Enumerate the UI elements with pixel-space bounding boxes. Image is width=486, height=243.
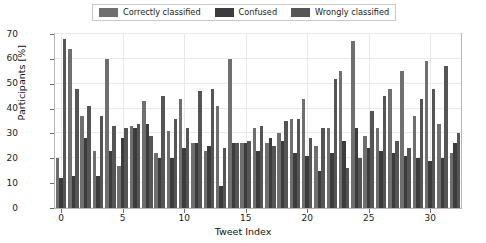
bar (137, 124, 141, 209)
x-tick-label: 25 (354, 214, 384, 223)
legend-label-confused: Confused (239, 8, 278, 16)
bar (321, 128, 325, 208)
bar-group (351, 41, 362, 208)
bar (87, 106, 91, 208)
bar-group (117, 128, 128, 208)
bar (309, 138, 313, 208)
y-tick-mark (50, 109, 54, 110)
bar-group (425, 61, 436, 208)
chart-legend: Correctly classified Confused Wrongly cl… (92, 4, 396, 21)
bar-group (363, 111, 374, 208)
y-tick-mark (50, 158, 54, 159)
y-tick-mark (50, 59, 54, 60)
bar (272, 146, 276, 208)
bar-group (302, 99, 313, 208)
x-tick-label: 20 (292, 214, 322, 223)
bar-group (167, 119, 178, 208)
y-tick-mark (50, 183, 54, 184)
bar-group (56, 39, 67, 208)
legend-entry-correctly-classified: Correctly classified (99, 8, 201, 17)
bar (247, 141, 251, 208)
y-tick-label: 30 (0, 129, 18, 138)
y-tick-mark (50, 133, 54, 134)
bar-group (388, 89, 399, 208)
bar-series-container (55, 34, 461, 208)
bar (223, 148, 227, 208)
figure: Correctly classified Confused Wrongly cl… (0, 0, 486, 243)
bar (186, 128, 190, 208)
x-tick-label: 10 (169, 214, 199, 223)
x-tick-label: 5 (108, 214, 138, 223)
bar (420, 99, 424, 208)
bar-group (265, 138, 276, 208)
x-tick-mark (307, 209, 308, 213)
bar-group (413, 99, 424, 208)
y-tick-label: 20 (0, 154, 18, 163)
x-tick-mark (369, 209, 370, 213)
x-tick-label: 30 (415, 214, 445, 223)
x-tick-mark (184, 209, 185, 213)
bar (346, 168, 350, 208)
x-tick-mark (61, 209, 62, 213)
legend-entry-wrongly-classified: Wrongly classified (291, 8, 389, 17)
bar (432, 89, 436, 208)
bar-group (179, 99, 190, 208)
y-axis-label: Participants [%] (17, 23, 27, 143)
bar-group (105, 59, 116, 208)
x-tick-mark (430, 209, 431, 213)
bar (63, 39, 67, 208)
x-tick-label: 0 (46, 214, 76, 223)
y-tick-mark (50, 208, 54, 209)
bar-group (327, 79, 338, 208)
bar (149, 136, 153, 208)
legend-swatch-wrongly-classified (291, 8, 310, 17)
y-tick-label: 70 (0, 30, 18, 39)
legend-label-correctly-classified: Correctly classified (123, 8, 201, 16)
bar (161, 96, 165, 208)
bar (124, 128, 128, 208)
bar-group (93, 116, 104, 208)
bar-group (142, 101, 153, 208)
legend-swatch-confused (215, 8, 234, 17)
bar-group (154, 96, 165, 208)
y-tick-mark (50, 34, 54, 35)
x-tick-mark (123, 209, 124, 213)
bar (260, 126, 264, 208)
y-tick-label: 0 (0, 204, 18, 213)
legend-swatch-correctly-classified (99, 8, 118, 17)
legend-label-wrongly-classified: Wrongly classified (315, 8, 389, 16)
bar (198, 91, 202, 208)
y-tick-label: 10 (0, 179, 18, 188)
bar (444, 66, 448, 208)
plot-area (54, 33, 462, 209)
bar (395, 141, 399, 208)
bar-group (437, 66, 448, 208)
bar (334, 79, 338, 208)
bar (370, 111, 374, 208)
bar (100, 116, 104, 208)
bar (211, 89, 215, 208)
bar-group (376, 96, 387, 208)
bar-group (216, 106, 227, 208)
bar-group (339, 71, 350, 208)
bar (383, 96, 387, 208)
bar (284, 121, 288, 208)
bar-group (400, 71, 411, 208)
bar (174, 119, 178, 208)
bar-group (314, 128, 325, 208)
bar-group (240, 141, 251, 208)
y-tick-mark (50, 84, 54, 85)
bar-group (68, 49, 79, 208)
bar (358, 158, 362, 208)
bar (75, 89, 79, 208)
bar (297, 119, 301, 208)
bar-group (228, 59, 239, 208)
bar (112, 126, 116, 208)
bar-group (130, 124, 141, 209)
bar (235, 143, 239, 208)
bar-group (277, 121, 288, 208)
x-tick-label: 15 (231, 214, 261, 223)
bar-group (450, 133, 461, 208)
bar-group (290, 119, 301, 208)
x-tick-mark (246, 209, 247, 213)
